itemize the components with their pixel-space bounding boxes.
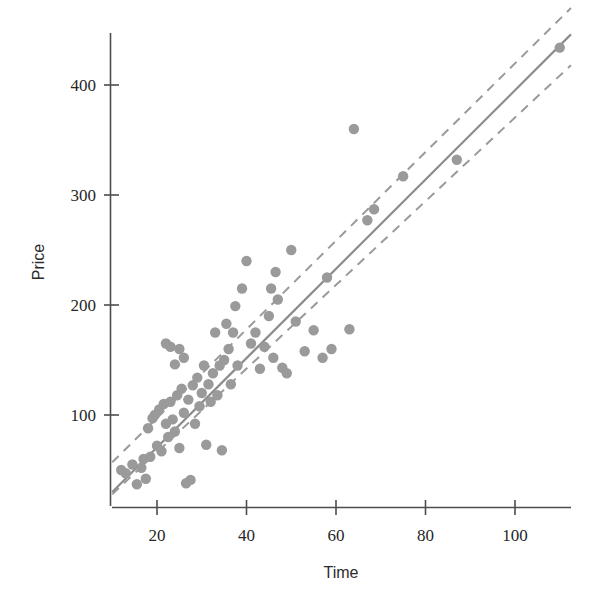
y-axis-label: Price [30,244,47,281]
x-tick-label: 20 [149,526,166,545]
confidence-bands-group [112,8,571,494]
data-point [259,342,269,352]
data-point [299,346,309,356]
data-point [174,443,184,453]
data-point [322,272,332,282]
x-tick-label: 60 [328,526,345,545]
data-point [176,383,186,393]
data-point [250,327,260,337]
data-point [232,360,242,370]
data-point [165,342,175,352]
data-point [264,311,274,321]
regression-fit-line [112,34,571,492]
data-point [228,327,238,337]
data-point [201,440,211,450]
data-point [369,204,379,214]
fit-line-group [112,34,571,492]
data-point [179,353,189,363]
x-tick-label: 100 [502,526,528,545]
data-point [268,353,278,363]
data-point [266,283,276,293]
data-point [246,338,256,348]
data-point [555,42,565,52]
data-point [326,344,336,354]
data-point [270,267,280,277]
data-point [349,124,359,134]
data-point [223,344,233,354]
y-tick-label: 400 [71,76,97,95]
data-point [194,401,204,411]
data-point [132,479,142,489]
data-point [241,256,251,266]
data-point [127,459,137,469]
data-point [230,301,240,311]
confidence-band-line [112,65,571,494]
y-tick-label: 200 [71,296,97,315]
data-point [282,368,292,378]
data-point [197,388,207,398]
x-tick-label: 40 [238,526,255,545]
data-point [183,394,193,404]
data-point [221,319,231,329]
data-point [156,446,166,456]
data-point [273,294,283,304]
data-point [286,245,296,255]
data-point [179,408,189,418]
data-point [308,325,318,335]
data-point [203,379,213,389]
data-point [217,445,227,455]
data-point [255,364,265,374]
data-point [199,360,209,370]
data-point [212,390,222,400]
data-point [192,372,202,382]
data-point [120,468,130,478]
scatter-plot-figure: 100200300400 20406080100 Time Price [0,0,606,609]
data-point [190,419,200,429]
plot-canvas: 100200300400 20406080100 Time Price [0,0,606,609]
data-point [452,155,462,165]
data-point [170,426,180,436]
x-tick-label: 80 [417,526,434,545]
data-point [141,474,151,484]
data-point [210,327,220,337]
data-point [219,355,229,365]
data-point [145,452,155,462]
data-point [226,379,236,389]
data-point [167,414,177,424]
data-point [237,283,247,293]
data-point [362,215,372,225]
data-point [143,423,153,433]
data-point [398,171,408,181]
data-point [317,353,327,363]
data-point [174,344,184,354]
x-axis-label: Time [324,564,359,581]
y-axis-ticks: 100200300400 [71,76,120,425]
y-tick-label: 100 [71,406,97,425]
data-point [185,475,195,485]
data-point [136,463,146,473]
data-point [344,324,354,334]
data-point [291,316,301,326]
data-point [170,359,180,369]
y-tick-label: 300 [71,186,97,205]
